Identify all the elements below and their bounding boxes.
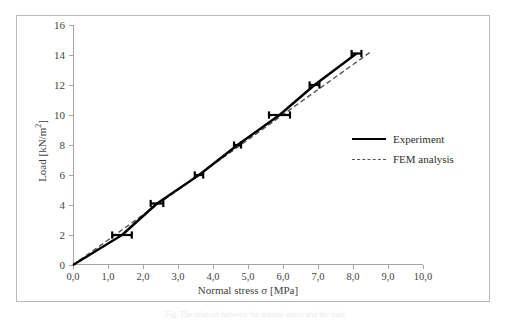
x-tick-label: 7,0 [311, 271, 324, 282]
x-tick-mark [178, 265, 179, 269]
x-tick-label: 2,0 [136, 271, 149, 282]
y-tick-label: 6 [60, 169, 66, 181]
y-tick-label: 10 [54, 109, 65, 121]
x-tick-label: 4,0 [206, 271, 219, 282]
x-tick-label: 0,0 [66, 271, 79, 282]
x-tick-label: 3,0 [171, 271, 184, 282]
y-tick-label: 14 [54, 49, 65, 61]
x-tick-mark [423, 265, 424, 269]
x-tick-mark [213, 265, 214, 269]
x-tick-mark [353, 265, 354, 269]
legend-label-experiment: Experiment [393, 133, 444, 145]
y-tick-label: 4 [60, 199, 66, 211]
y-tick-label: 16 [54, 19, 65, 31]
legend-item-experiment: Experiment [352, 129, 480, 149]
y-tick-label: 12 [54, 79, 65, 91]
x-tick-label: 5,0 [241, 271, 254, 282]
x-tick-label: 9,0 [381, 271, 394, 282]
x-tick-mark [108, 265, 109, 269]
y-axis-title: Load [kN/m2] [31, 31, 47, 271]
x-tick-label: 1,0 [101, 271, 114, 282]
x-tick-label: 6,0 [276, 271, 289, 282]
legend-swatch-dashed-icon [352, 154, 386, 164]
x-tick-mark [283, 265, 284, 269]
y-tick-label: 8 [60, 139, 66, 151]
legend-item-fem-analysis: FEM analysis [352, 149, 480, 169]
x-tick-mark [143, 265, 144, 269]
y-axis-title-bracket: ] [36, 120, 48, 124]
x-tick-mark [318, 265, 319, 269]
legend-swatch-solid-icon [352, 134, 386, 144]
y-axis-title-text: Load [kN/m [36, 128, 48, 182]
experiment-series [73, 50, 361, 265]
x-tick-mark [248, 265, 249, 269]
x-tick-mark [388, 265, 389, 269]
y-tick-label: 0 [60, 259, 66, 271]
x-tick-label: 8,0 [346, 271, 359, 282]
plot-area: 0246810121416 0,01,02,03,04,05,06,07,08,… [73, 25, 423, 265]
figure-caption: Fig. The relation between the normal str… [30, 310, 480, 319]
x-axis-title: Normal stress σ [MPa] [73, 284, 423, 296]
figure-frame: Load [kN/m2] Normal stress σ [MPa] 02468… [16, 15, 490, 302]
legend: Experiment FEM analysis [352, 129, 480, 169]
y-tick-label: 2 [60, 229, 66, 241]
y-axis-title-superscript: 2 [34, 124, 43, 128]
legend-label-fem-analysis: FEM analysis [393, 153, 454, 165]
x-tick-label: 10,0 [414, 271, 432, 282]
